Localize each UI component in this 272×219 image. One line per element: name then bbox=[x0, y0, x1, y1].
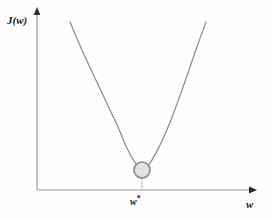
x-axis-arrow-icon bbox=[249, 187, 257, 194]
optimum-superscript-text: * bbox=[137, 194, 141, 203]
optimum-base-text: w bbox=[130, 196, 137, 207]
plot-canvas bbox=[0, 0, 272, 219]
optimum-value-label: w* bbox=[130, 194, 141, 207]
cost-function-figure: J(w) w w* bbox=[0, 0, 272, 219]
cost-function-curve bbox=[70, 22, 206, 170]
x-axis-label: w bbox=[246, 198, 253, 210]
y-axis-arrow-icon bbox=[34, 7, 41, 15]
y-axis-label: J(w) bbox=[7, 14, 27, 26]
global-minimum-marker bbox=[134, 162, 150, 178]
